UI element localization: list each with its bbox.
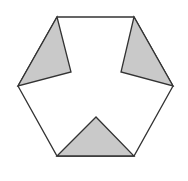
hexagon-diagram (0, 0, 188, 181)
